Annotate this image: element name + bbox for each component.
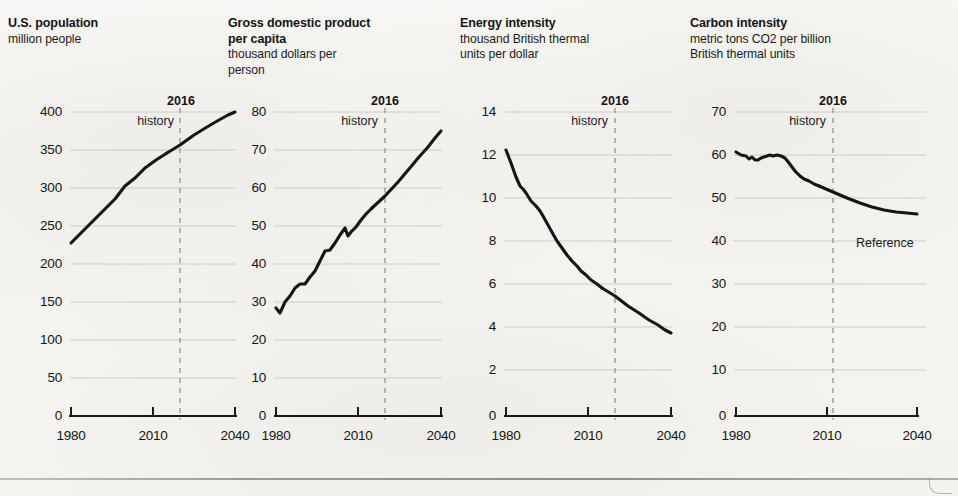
plot-svg [690, 0, 940, 470]
data-line-history [736, 152, 819, 186]
x-axis [70, 408, 236, 416]
chart-panel-us-population: U.S. population million people [8, 0, 248, 470]
x-axis [505, 408, 672, 416]
y-tick-label: 10 [460, 190, 496, 205]
data-line-reference [167, 112, 235, 153]
data-line-history [71, 153, 167, 243]
y-tick-label: 100 [8, 332, 62, 347]
projection-year-label: 2016 [136, 94, 226, 108]
y-tick-label: 70 [228, 142, 266, 157]
y-tick-label: 50 [8, 370, 62, 385]
y-tick-label: 40 [228, 256, 266, 271]
y-tick-label: 12 [460, 147, 496, 162]
plot-area [228, 0, 468, 470]
plot-area [460, 0, 700, 470]
y-tick-label: 8 [460, 233, 496, 248]
page-corner-mark [929, 477, 952, 494]
history-label: history [532, 114, 608, 128]
x-tick-label: 1980 [706, 428, 766, 443]
y-tick-label: 250 [8, 218, 62, 233]
x-tick-label: 2010 [558, 428, 618, 443]
plot-area [690, 0, 930, 470]
series-label-reference: Reference [856, 236, 914, 250]
y-tick-label: 30 [228, 294, 266, 309]
y-tick-label: 6 [460, 276, 496, 291]
chart-panel-gdp-per-capita: Gross domestic product per capita thousa… [228, 0, 468, 470]
y-tick-label: 4 [460, 319, 496, 334]
y-tick-label: 30 [690, 276, 726, 291]
y-tick-label: 2 [460, 362, 496, 377]
gridlines [70, 112, 236, 378]
gridlines [274, 112, 442, 378]
y-tick-label: 200 [8, 256, 62, 271]
x-tick-label: 2010 [328, 428, 388, 443]
x-axis [735, 408, 918, 416]
y-tick-label: 50 [690, 190, 726, 205]
y-tick-label: 0 [228, 408, 266, 423]
chart-panel-energy-intensity: Energy intensity thousand British therma… [460, 0, 700, 470]
y-tick-label: 150 [8, 294, 62, 309]
y-tick-label: 70 [690, 104, 726, 119]
y-tick-label: 14 [460, 104, 496, 119]
y-tick-label: 300 [8, 180, 62, 195]
y-tick-label: 400 [8, 104, 62, 119]
y-tick-label: 10 [228, 370, 266, 385]
history-label: history [750, 114, 826, 128]
data-line-reference [819, 186, 917, 214]
plot-svg [228, 0, 468, 470]
x-axis [275, 408, 442, 416]
data-line-reference [602, 288, 671, 333]
x-tick-label: 1980 [476, 428, 536, 443]
x-tick-label: 2010 [797, 428, 857, 443]
y-tick-label: 20 [228, 332, 266, 347]
x-tick-label: 2040 [887, 428, 947, 443]
history-label: history [98, 114, 174, 128]
data-line-history [506, 150, 602, 288]
projection-year-label: 2016 [340, 94, 430, 108]
y-tick-label: 50 [228, 218, 266, 233]
y-tick-label: 20 [690, 319, 726, 334]
y-tick-label: 350 [8, 142, 62, 157]
y-tick-label: 0 [8, 408, 62, 423]
gridlines [504, 112, 672, 370]
y-tick-label: 0 [460, 408, 496, 423]
projection-year-label: 2016 [788, 94, 878, 108]
y-tick-label: 60 [690, 147, 726, 162]
plot-area [8, 0, 248, 470]
x-tick-label: 1980 [41, 428, 101, 443]
data-line-reference [372, 131, 441, 208]
projection-year-label: 2016 [570, 94, 660, 108]
y-tick-label: 80 [228, 104, 266, 119]
y-tick-label: 60 [228, 180, 266, 195]
y-tick-label: 0 [690, 408, 726, 423]
y-tick-label: 10 [690, 362, 726, 377]
y-tick-label: 40 [690, 233, 726, 248]
history-label: history [302, 114, 378, 128]
page-separator-rule [0, 478, 958, 480]
x-tick-label: 2010 [123, 428, 183, 443]
data-line-history [276, 208, 372, 313]
plot-svg [460, 0, 700, 470]
x-tick-label: 1980 [246, 428, 306, 443]
plot-svg [8, 0, 248, 470]
chart-panel-carbon-intensity: Carbon intensity metric tons CO2 per bil… [690, 0, 930, 470]
